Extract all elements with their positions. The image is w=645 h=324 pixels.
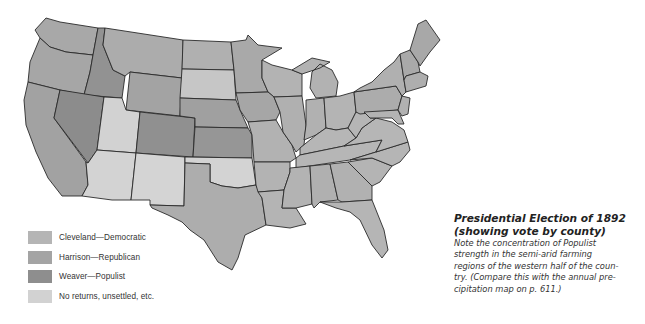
legend-label-no-returns: No returns, unsettled, etc.: [59, 292, 154, 301]
caption-title-line2: (showing vote by county): [454, 225, 644, 238]
map-legend: Cleveland—Democratic Harrison—Republican…: [28, 228, 154, 306]
legend-label-populist: Weaver—Populist: [59, 272, 125, 281]
legend-swatch-republican: [28, 251, 52, 264]
state-colorado: [136, 112, 195, 157]
caption-body-line: strength in the semi-arid farming: [454, 249, 644, 260]
legend-label-democratic: Cleveland—Democratic: [59, 233, 146, 242]
legend-swatch-democratic: [28, 231, 52, 244]
caption-body-line: cipitation map on p. 611.): [454, 284, 644, 295]
legend-item-populist: Weaver—Populist: [28, 267, 154, 287]
legend-label-republican: Harrison—Republican: [59, 253, 140, 262]
state-south-dakota: [180, 69, 236, 100]
caption-title: Presidential Election of 1892 (showing v…: [454, 212, 644, 237]
caption-body: Note the concentration of Populist stren…: [454, 238, 644, 295]
state-florida: [320, 200, 388, 258]
caption-body-line: regions of the western half of the coun-: [454, 261, 644, 272]
state-montana: [103, 28, 183, 78]
state-wisconsin: [262, 60, 302, 97]
state-north-dakota: [182, 40, 234, 70]
caption-body-line: try. (Compare this with the annual pre-: [454, 272, 644, 283]
state-new-mexico: [131, 153, 185, 206]
caption-body-line: Note the concentration of Populist: [454, 238, 644, 249]
legend-item-democratic: Cleveland—Democratic: [28, 228, 154, 248]
legend-swatch-populist: [28, 270, 52, 283]
legend-item-republican: Harrison—Republican: [28, 248, 154, 268]
legend-swatch-no-returns: [28, 290, 52, 303]
legend-item-no-returns: No returns, unsettled, etc.: [28, 287, 154, 307]
state-kansas: [193, 127, 252, 158]
state-wyoming: [126, 72, 182, 116]
figure-caption: Presidential Election of 1892 (showing v…: [454, 212, 644, 295]
caption-title-line1: Presidential Election of 1892: [454, 212, 644, 225]
